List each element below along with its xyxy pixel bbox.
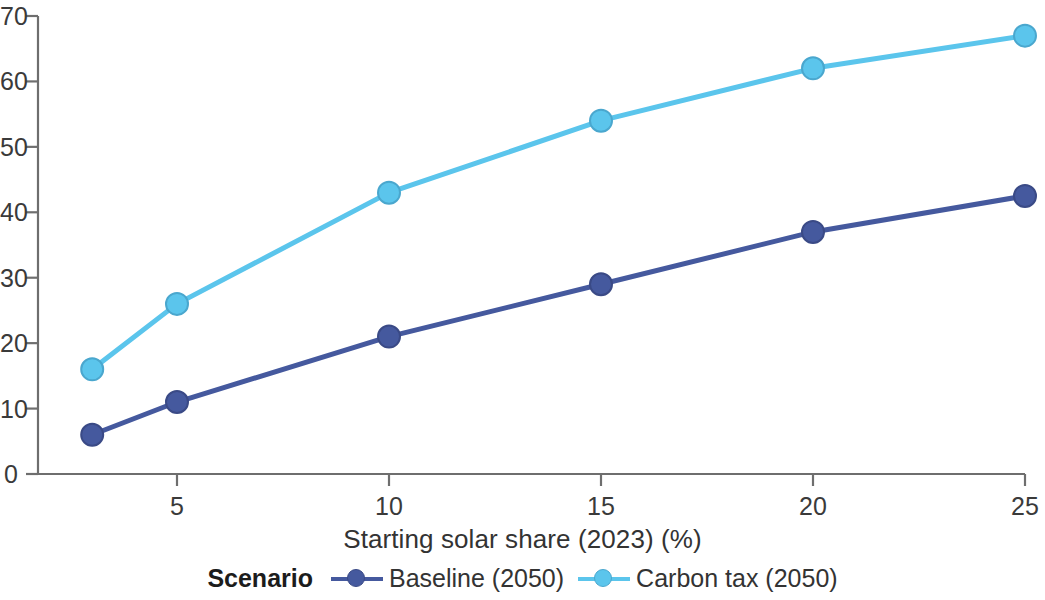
y-axis-tick-label: 60 [0,67,18,96]
legend-marker-carbon-tax [594,569,612,587]
data-point-marker[interactable] [378,182,400,204]
x-axis-tick-label: 20 [799,492,827,521]
axes [26,16,1025,486]
y-axis-tick-label: 30 [0,263,18,292]
legend-marker-baseline [347,569,365,587]
legend-label-carbon-tax: Carbon tax (2050) [636,564,838,593]
chart-legend: Scenario Baseline (2050) Carbon tax (205… [0,564,1045,593]
x-axis-tick-label: 10 [375,492,403,521]
data-point-marker[interactable] [802,57,824,79]
data-point-marker[interactable] [802,221,824,243]
data-point-marker[interactable] [1014,185,1036,207]
data-point-marker[interactable] [166,391,188,413]
data-series [81,185,1036,446]
data-point-marker[interactable] [590,110,612,132]
data-point-marker[interactable] [590,273,612,295]
legend-key-baseline [331,567,383,591]
data-series-group [81,25,1036,446]
data-series [81,25,1036,381]
x-axis-title: Starting solar share (2023) (%) [0,524,1045,555]
y-axis-tick-label: 10 [0,394,18,423]
data-point-marker[interactable] [81,424,103,446]
y-axis-tick-label: 40 [0,198,18,227]
y-axis-tick-label: 20 [0,329,18,358]
y-axis-tick-label: 50 [0,132,18,161]
legend-item-carbon-tax[interactable]: Carbon tax (2050) [578,564,838,593]
legend-label-baseline: Baseline (2050) [389,564,564,593]
line-chart: 010203040506070 510152025 Starting solar… [0,0,1045,600]
x-axis-tick-label: 15 [587,492,615,521]
y-axis-tick-label: 70 [0,2,18,31]
x-axis-tick-label: 25 [1011,492,1039,521]
data-point-marker[interactable] [81,358,103,380]
plot-area [0,0,1045,600]
data-point-marker[interactable] [166,293,188,315]
data-point-marker[interactable] [1014,25,1036,47]
data-point-marker[interactable] [378,326,400,348]
series-line [92,36,1025,370]
legend-item-baseline[interactable]: Baseline (2050) [331,564,564,593]
legend-key-carbon-tax [578,567,630,591]
legend-title: Scenario [207,564,313,593]
x-axis-ticks [177,474,1025,486]
series-line [92,196,1025,435]
x-axis-tick-label: 5 [170,492,184,521]
y-axis-tick-label: 0 [0,460,18,489]
